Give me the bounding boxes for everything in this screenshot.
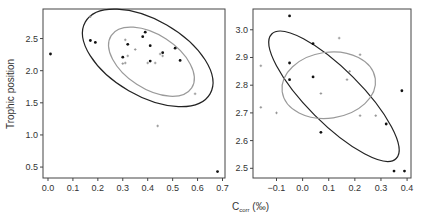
grey-data-point — [124, 39, 127, 42]
y-tick-label: 2.7 — [235, 108, 248, 118]
black-data-point — [149, 60, 152, 63]
black-data-point — [161, 51, 164, 54]
svg-text:Ccorr (‰): Ccorr (‰) — [232, 201, 269, 213]
grey-data-point — [121, 62, 124, 65]
y-tick-label: 2.5 — [235, 163, 248, 173]
grey-data-point — [134, 48, 137, 51]
grey-data-point — [146, 62, 149, 65]
black-data-point — [312, 42, 315, 45]
y-tick-label: 2.8 — [235, 80, 248, 90]
x-tick-label: 0.3 — [117, 183, 130, 193]
x-tick-label: 0.2 — [92, 183, 105, 193]
black-data-point — [126, 43, 129, 46]
black-data-point — [288, 78, 291, 81]
x-tick-label: −0.1 — [268, 183, 286, 193]
x-tick-label: 0.4 — [141, 183, 154, 193]
black-data-point — [121, 56, 124, 59]
x-axis-label-unit: (‰) — [252, 201, 269, 212]
figure: 0.00.10.20.30.40.50.60.70.51.01.52.02.5 … — [0, 0, 421, 218]
y-tick-label: 0.5 — [25, 162, 38, 172]
y-tick-label: 3.0 — [235, 25, 248, 35]
grey-data-point — [338, 37, 341, 40]
x-tick-label: 0.3 — [375, 183, 388, 193]
grey-data-point — [161, 55, 164, 58]
y-tick-label: 2.9 — [235, 52, 248, 62]
left-panel: 0.00.10.20.30.40.50.60.70.51.01.52.02.5 — [25, 0, 229, 193]
grey-data-point — [359, 53, 362, 56]
grey-confidence-ellipse — [278, 46, 380, 124]
grey-data-point — [126, 55, 129, 58]
black-data-point — [149, 44, 152, 47]
x-axis-label-main: C — [232, 201, 239, 212]
grey-data-point — [320, 92, 323, 95]
y-tick-label: 1.0 — [25, 130, 38, 140]
x-axis-label: Ccorr (‰) — [232, 201, 269, 213]
x-tick-label: 0.0 — [42, 183, 55, 193]
black-data-point — [288, 62, 291, 65]
black-data-point — [144, 31, 147, 34]
grey-data-point — [359, 114, 362, 117]
black-confidence-ellipse — [253, 15, 416, 178]
x-tick-label: 0.2 — [349, 183, 362, 193]
grey-data-point — [194, 93, 197, 96]
grey-data-point — [154, 62, 157, 65]
y-tick-label: 2.6 — [235, 136, 248, 146]
black-data-point — [49, 53, 52, 56]
y-axis-label: Trophic position — [5, 59, 16, 129]
black-data-point — [141, 35, 144, 38]
grey-data-point — [124, 62, 127, 65]
plot-frame — [253, 9, 411, 178]
x-tick-label: 0.5 — [166, 183, 179, 193]
black-data-point — [403, 170, 406, 173]
grey-data-point — [275, 112, 278, 115]
x-tick-label: 0.4 — [401, 183, 414, 193]
black-data-point — [320, 131, 323, 134]
grey-confidence-ellipse — [96, 13, 206, 111]
grey-data-point — [156, 125, 159, 128]
black-data-point — [393, 170, 396, 173]
black-data-point — [400, 89, 403, 92]
x-tick-label: 0.1 — [67, 183, 80, 193]
x-axis-label-sub: corr — [239, 207, 249, 213]
x-tick-label: 0.1 — [322, 183, 335, 193]
black-data-point — [94, 41, 97, 44]
x-tick-label: 0.0 — [296, 183, 309, 193]
grey-data-point — [260, 106, 263, 109]
black-data-point — [288, 15, 291, 18]
right-panel: −0.10.00.10.20.30.42.52.62.72.82.93.0 — [235, 9, 415, 193]
black-data-point — [312, 75, 315, 78]
y-tick-label: 1.5 — [25, 98, 38, 108]
y-tick-label: 2.5 — [25, 34, 38, 44]
black-data-point — [174, 47, 177, 50]
x-tick-label: 0.7 — [216, 183, 229, 193]
grey-data-point — [374, 114, 377, 117]
black-data-point — [89, 39, 92, 42]
black-data-point — [385, 123, 388, 126]
grey-data-point — [159, 53, 162, 56]
y-tick-label: 2.0 — [25, 66, 38, 76]
grey-data-point — [346, 78, 349, 81]
black-data-point — [216, 170, 219, 173]
black-data-point — [179, 59, 182, 62]
grey-data-point — [260, 64, 263, 67]
x-tick-label: 0.6 — [191, 183, 204, 193]
